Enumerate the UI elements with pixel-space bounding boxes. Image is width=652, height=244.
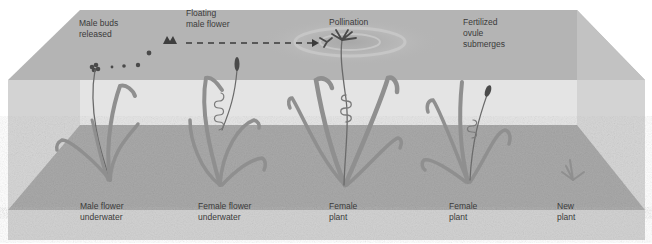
- label-floating-male-flower: Floating male flower: [186, 8, 229, 30]
- label-male-buds-released: Male buds released: [79, 18, 118, 40]
- label-female-flower-underwater: Female flower underwater: [198, 201, 251, 223]
- label-new-plant: New plant: [557, 201, 575, 223]
- label-female-plant-1: Female plant: [329, 201, 357, 223]
- water-surface-right-face: [577, 10, 645, 80]
- label-female-plant-2: Female plant: [449, 201, 477, 223]
- label-pollination: Pollination: [329, 17, 368, 28]
- label-male-flower-underwater: Male flower underwater: [80, 201, 123, 223]
- label-fertilized-ovule-submerges: Fertilized ovule submerges: [463, 17, 505, 50]
- water-body: [80, 80, 577, 125]
